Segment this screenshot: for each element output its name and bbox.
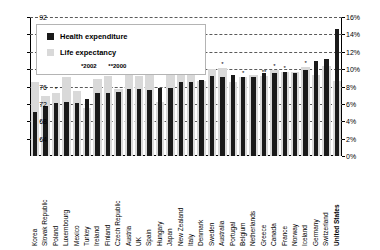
bar-health-expenditure: [64, 102, 68, 156]
bar-slot: *: [238, 17, 248, 156]
bar-health-expenditure: [137, 89, 141, 156]
bar-health-expenditure: [283, 72, 287, 156]
category-label: Slovak Republic: [42, 158, 49, 246]
footnote-marker: *: [242, 70, 244, 76]
bar-health-expenditure: [335, 29, 339, 156]
bar-health-expenditure: [95, 93, 99, 156]
footnote-marker: *: [273, 63, 275, 69]
category-label: Italy: [188, 158, 195, 246]
left-axis-tick-label: 68: [21, 118, 47, 125]
footnote-marker: *: [55, 86, 57, 92]
bar-health-expenditure: [262, 73, 266, 156]
bar-health-expenditure: [127, 89, 131, 156]
bar-slot: *: [217, 17, 227, 156]
category-label: France: [282, 158, 289, 246]
right-axis-tick: [342, 121, 345, 122]
left-axis-tick-label: 72: [21, 100, 47, 107]
bar-slot: *: [332, 17, 342, 156]
category-label: Germany: [313, 158, 320, 246]
right-axis-tick-label: 6%: [346, 100, 376, 107]
bar-health-expenditure: [158, 88, 162, 156]
bar-health-expenditure: [85, 99, 89, 156]
bar-slot: [228, 17, 238, 156]
footnote-marker: *: [284, 65, 286, 71]
bar-slot: *: [321, 17, 331, 156]
bar-health-expenditure: [179, 82, 183, 156]
category-label: UK: [136, 158, 143, 246]
bar-health-expenditure: [43, 106, 47, 156]
category-label: Hungary: [157, 158, 164, 246]
bar-health-expenditure: [293, 73, 297, 156]
bar-health-expenditure: [210, 76, 214, 156]
category-label: Denmark: [198, 158, 205, 246]
bar-slot: *: [269, 17, 279, 156]
category-label: Canada: [271, 158, 278, 246]
right-axis-tick: [342, 52, 345, 53]
health-expenditure-life-expectancy-chart: **************** 6468727680848892 0%2%4%…: [0, 0, 380, 250]
right-axis-tick: [342, 104, 345, 105]
bar-health-expenditure: [189, 82, 193, 156]
category-label: Netherlands: [250, 158, 257, 246]
category-label: Luxembourg: [63, 158, 70, 246]
legend-swatch-life-expectancy: [47, 49, 54, 56]
bar-slot: *: [280, 17, 290, 156]
bar-health-expenditure: [231, 75, 235, 156]
right-axis-tick: [342, 34, 345, 35]
category-label: Finland: [105, 158, 112, 246]
left-axis-tick-label: 64: [21, 135, 47, 142]
bar-health-expenditure: [241, 77, 245, 156]
category-label: United States: [334, 158, 341, 246]
left-axis-tick-label: 92: [21, 14, 47, 21]
bar-slot: [290, 17, 300, 156]
footnote-marker: *: [304, 60, 306, 66]
right-axis-tick: [342, 139, 345, 140]
right-axis-tick-label: 2%: [346, 135, 376, 142]
bar-health-expenditure: [75, 103, 79, 156]
category-label: Mexico: [74, 158, 81, 246]
footnote-marker: *: [221, 61, 223, 67]
right-axis-tick: [342, 69, 345, 70]
category-label: Norway: [292, 158, 299, 246]
legend-footnotes: *2002 **2000: [81, 63, 126, 69]
right-axis-tick: [342, 17, 345, 18]
right-axis-tick-label: 16%: [346, 14, 376, 21]
legend-entry-health-expenditure: Health expenditure: [47, 33, 128, 41]
legend-swatch-health-expenditure: [47, 33, 54, 40]
legend-footnote-2002: *2002: [81, 63, 97, 69]
bar-slot: [311, 17, 321, 156]
bar-health-expenditure: [314, 61, 318, 156]
category-label: Portugal: [230, 158, 237, 246]
bar-health-expenditure: [147, 90, 151, 156]
bar-slot: [248, 17, 258, 156]
right-axis-tick: [342, 87, 345, 88]
right-axis-tick-label: 10%: [346, 66, 376, 73]
category-label: Japan: [167, 158, 174, 246]
category-label: Korea: [32, 158, 39, 246]
legend-entry-life-expectancy: Life expectancy: [47, 49, 116, 57]
category-axis-labels: KoreaSlovak RepublicPolandLuxembourgMexi…: [30, 158, 342, 248]
bar-health-expenditure: [54, 103, 58, 156]
right-axis-tick: [342, 156, 345, 157]
bar-health-expenditure: [303, 70, 307, 156]
category-label: Czech Republic: [115, 158, 122, 246]
category-label: Ireland: [94, 158, 101, 246]
right-axis-tick-label: 8%: [346, 83, 376, 90]
chart-legend: Health expenditure Life expectancy *2002…: [36, 24, 206, 75]
legend-label-life-expectancy: Life expectancy: [60, 49, 116, 57]
right-axis-tick-label: 0%: [346, 153, 376, 160]
bar-health-expenditure: [116, 92, 120, 156]
bar-health-expenditure: [220, 77, 224, 156]
bar-health-expenditure: [324, 59, 328, 156]
right-axis-tick-label: 14%: [346, 31, 376, 38]
category-label: Australia: [219, 158, 226, 246]
category-label: Belgium: [240, 158, 247, 246]
bar-slot: *: [300, 17, 310, 156]
category-label: Sweden: [209, 158, 216, 246]
category-label: Turkey: [84, 158, 91, 246]
category-label: Austria: [126, 158, 133, 246]
bar-slot: [207, 17, 217, 156]
category-label: Iceland: [302, 158, 309, 246]
bar-health-expenditure: [251, 77, 255, 156]
left-axis-tick-label: 76: [21, 83, 47, 90]
bar-health-expenditure: [168, 88, 172, 156]
